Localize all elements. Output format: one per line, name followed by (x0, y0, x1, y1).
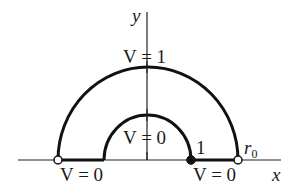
inner-arc-label: V = 0 (123, 128, 166, 147)
right-boundary-label: V = 0 (193, 165, 236, 184)
open-point-r0 (234, 156, 242, 164)
outer-arc-label: V = 1 (123, 47, 166, 66)
outer-radius-subscript: 0 (251, 147, 257, 161)
left-boundary-label: V = 0 (60, 165, 103, 184)
open-point-left (54, 156, 62, 164)
x-axis-label: x (272, 165, 280, 184)
y-axis-label: y (132, 6, 140, 25)
filled-point-one (187, 156, 196, 165)
diagram-canvas (0, 0, 299, 190)
outer-radius-label: r0 (244, 138, 257, 160)
inner-radius-label: 1 (196, 138, 206, 157)
